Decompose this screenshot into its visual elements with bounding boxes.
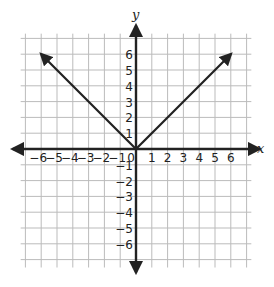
y-tick-label: 2 xyxy=(125,111,133,125)
y-tick-label: 6 xyxy=(125,48,133,62)
x-tick-label: 2 xyxy=(164,151,172,165)
y-tick-label: −6 xyxy=(115,238,133,252)
x-axis-label: x xyxy=(257,141,265,156)
y-tick-label: 5 xyxy=(125,64,133,78)
y-tick-label: 3 xyxy=(125,96,133,110)
y-tick-label: −5 xyxy=(115,222,133,236)
y-tick-label: −1 xyxy=(115,159,133,173)
y-tick-label: −2 xyxy=(115,175,133,189)
y-axis-label: y xyxy=(131,7,140,22)
y-tick-label: −4 xyxy=(115,206,133,220)
coordinate-plane: −6−5−4−3−2−10123456123456−1−2−3−4−5−6 x … xyxy=(0,0,274,287)
y-tick-label: 4 xyxy=(125,80,133,94)
x-tick-label: 6 xyxy=(227,151,235,165)
x-tick-label: 1 xyxy=(148,151,156,165)
x-tick-label: 5 xyxy=(211,151,219,165)
y-tick-label: −3 xyxy=(115,190,133,204)
x-tick-label: 3 xyxy=(180,151,188,165)
x-tick-label: 4 xyxy=(195,151,203,165)
